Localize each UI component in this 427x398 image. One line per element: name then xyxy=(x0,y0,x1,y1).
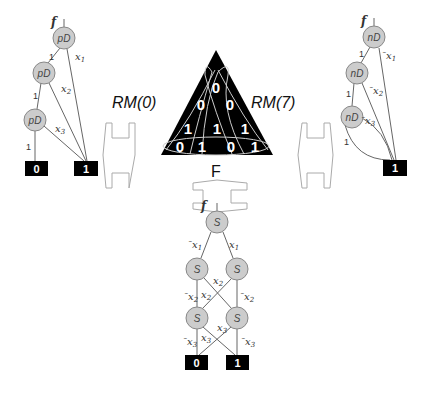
double-arrow-right-icon xyxy=(298,123,333,188)
svg-text:pD: pD xyxy=(28,115,42,126)
svg-text:S: S xyxy=(194,313,201,324)
s-node-2b: S xyxy=(226,258,248,280)
edge-label-x2: x2 xyxy=(61,83,72,96)
edge-label-x2: x2 xyxy=(213,275,224,288)
nd-node-1: nD xyxy=(363,26,385,48)
svg-text:S: S xyxy=(194,264,201,275)
left-decision-diagram: pD pD pD f 1 1 1 x1 x2 x3 0 1 xyxy=(24,15,98,176)
terminal-1: 1 xyxy=(226,355,249,370)
double-arrow-left-icon xyxy=(103,123,135,188)
edge-label: 1 xyxy=(344,137,349,147)
svg-text:S: S xyxy=(234,313,241,324)
triangle-value: 1 xyxy=(213,120,221,137)
edge-label-x1: x1 xyxy=(75,51,85,64)
s-node-root: S xyxy=(206,211,228,233)
edge-label-x3: x3 xyxy=(201,332,212,345)
edge-label-not-x1: ¯x1 xyxy=(381,50,396,63)
diagram-canvas: pD pD pD f 1 1 1 x1 x2 x3 0 1 RM(0) xyxy=(0,0,427,398)
edge-label-not-x1: ¯x1 xyxy=(187,239,202,252)
edge-label-x3: x3 xyxy=(55,123,66,136)
svg-text:S: S xyxy=(214,217,221,228)
rm0-label: RM(0) xyxy=(112,94,156,111)
bottom-decision-diagram: S S S S S f ¯x1 x1 ¯x2 x2 x2 ¯x2 ¯x3 x3 … xyxy=(182,199,256,370)
rm7-label: RM(7) xyxy=(251,94,295,111)
s-node-3a: S xyxy=(186,307,208,329)
edge-label: 1 xyxy=(359,49,364,59)
f-label: F xyxy=(211,163,221,180)
terminal-1: 1 xyxy=(74,161,98,176)
triangle-value: 0 xyxy=(176,138,184,155)
triangle-value: 1 xyxy=(198,138,206,155)
svg-text:nD: nD xyxy=(346,112,359,123)
svg-text:0: 0 xyxy=(33,163,39,175)
function-label: f xyxy=(360,14,368,28)
right-decision-diagram: nD nD nD f 1 1 1 ¯x1 ¯x2 ¯x3 1 xyxy=(341,14,407,176)
edge-label-not-x2: ¯x2 xyxy=(239,291,255,304)
triangle-value: 0 xyxy=(226,96,234,113)
s-node-3b: S xyxy=(226,307,248,329)
function-label: f xyxy=(50,15,58,29)
terminal-1: 1 xyxy=(383,160,407,176)
triangle-value: 1 xyxy=(241,120,249,137)
pd-node-1: pD xyxy=(53,27,75,49)
edge-label-not-x3: ¯x3 xyxy=(360,115,376,128)
svg-text:1: 1 xyxy=(234,357,240,369)
svg-text:nD: nD xyxy=(368,32,381,43)
edge-label-not-x2: ¯x2 xyxy=(368,85,384,98)
edge-label-not-x3: ¯x3 xyxy=(240,336,256,349)
edge-label: 1 xyxy=(346,89,351,99)
svg-text:pD: pD xyxy=(37,68,51,79)
nd-node-2: nD xyxy=(346,62,368,84)
s-node-2a: S xyxy=(186,258,208,280)
edge-label-x2: x2 xyxy=(201,289,212,302)
edge-label-not-x2: ¯x2 xyxy=(183,291,199,304)
triangle-value: 1 xyxy=(184,120,192,137)
pd-node-3: pD xyxy=(24,109,46,131)
svg-text:1: 1 xyxy=(83,163,89,175)
triangle-value: 1 xyxy=(251,138,259,155)
reed-muller-triangle: RM(0) RM(7) 0 0 0 1 1 1 0 1 0 1 F xyxy=(112,50,295,180)
edge-label: 1 xyxy=(26,142,31,152)
pd-node-2: pD xyxy=(33,62,55,84)
edge-label-x1: x1 xyxy=(229,239,239,252)
svg-text:1: 1 xyxy=(392,162,398,174)
svg-text:0: 0 xyxy=(193,357,199,369)
svg-text:nD: nD xyxy=(351,68,364,79)
triangle-value: 0 xyxy=(212,79,220,96)
edge-label: 1 xyxy=(33,91,38,101)
svg-text:pD: pD xyxy=(57,33,71,44)
triangle-value: 0 xyxy=(227,138,235,155)
edge-label-x3: x3 xyxy=(217,322,228,335)
terminal-0: 0 xyxy=(185,355,208,370)
terminal-0: 0 xyxy=(25,161,48,176)
edge-label-not-x3: ¯x3 xyxy=(182,336,198,349)
triangle-value: 0 xyxy=(197,96,205,113)
edge-label: 1 xyxy=(49,52,54,62)
svg-text:S: S xyxy=(234,264,241,275)
